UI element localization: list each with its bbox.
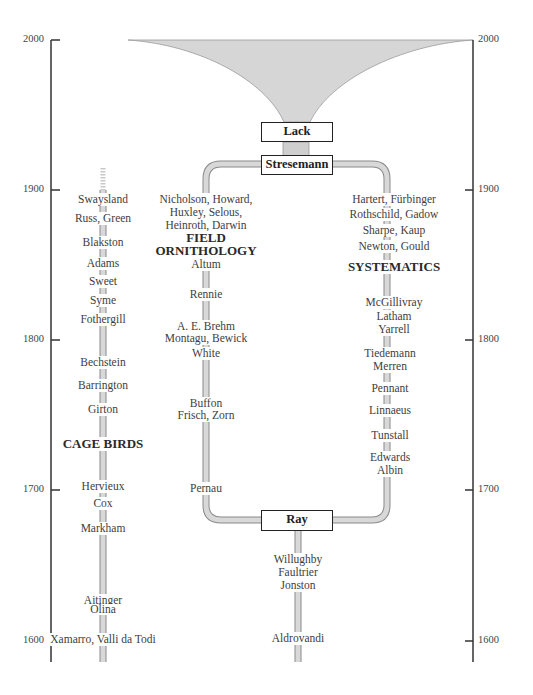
- field-name: White: [191, 347, 221, 360]
- early-name: Jonston: [279, 579, 316, 592]
- systematics-name: Merren: [372, 360, 408, 373]
- node-lack: Lack: [261, 122, 333, 142]
- cage-name: Bechstein: [79, 356, 126, 369]
- node-ray: Ray: [261, 510, 333, 531]
- left-tick-1600: 1600: [4, 634, 44, 646]
- early-name: Aldrovandi: [271, 632, 325, 645]
- systematics-name: Tiedemann: [363, 347, 416, 360]
- field-name: Altum: [190, 258, 221, 271]
- systematics-name: Pennant: [370, 382, 409, 395]
- funnel-shape: [128, 40, 473, 122]
- node-stresemann: Stresemann: [261, 155, 333, 175]
- cage-name: Fothergill: [79, 313, 126, 326]
- systematics-name: Yarrell: [377, 323, 410, 336]
- systematics-name: Sharpe, Kaup: [362, 224, 427, 237]
- cage-name: Swaysland: [77, 193, 129, 206]
- left-tick-1900: 1900: [4, 183, 44, 195]
- field-name: Frisch, Zorn: [177, 409, 236, 422]
- systematics-name: Linnaeus: [368, 404, 412, 417]
- lack-stresemann-connector: [283, 142, 309, 156]
- right-tick-1600: 1600: [478, 634, 499, 646]
- systematics-name: Newton, Gould: [358, 240, 431, 253]
- field-name: Nicholson, Howard,: [159, 193, 254, 206]
- early-name: Faultrier: [277, 566, 319, 579]
- left-tick-2000: 2000: [4, 33, 44, 45]
- field-ornithology-heading-2: ORNITHOLOGY: [154, 244, 257, 258]
- cage-name: Olina: [89, 604, 117, 615]
- diagram-graphics: [0, 0, 533, 695]
- systematics-name: Hartert, Fürbinger: [351, 193, 437, 206]
- systematics-name: Albin: [376, 464, 404, 477]
- cage-name: Xamarro, Valli da Todi: [49, 633, 156, 646]
- systematics-name: Rothschild, Gadow: [349, 208, 440, 221]
- left-tick-1700: 1700: [4, 483, 44, 495]
- cage-name: Russ, Green: [74, 212, 132, 225]
- cage-birds-heading: CAGE BIRDS: [62, 437, 145, 451]
- systematics-name: Latham: [375, 310, 412, 323]
- cage-name: Girton: [87, 403, 119, 416]
- field-name: Huxley, Selous,: [169, 206, 243, 219]
- cage-name: Cox: [92, 497, 113, 510]
- field-name: Montagu, Bewick: [164, 332, 248, 345]
- cage-name: Syme: [89, 294, 117, 307]
- cage-name: Barrington: [77, 379, 129, 392]
- right-tick-1700: 1700: [478, 483, 499, 495]
- left-tick-1800: 1800: [4, 333, 44, 345]
- systematics-name: Edwards: [369, 451, 411, 464]
- systematics-name: McGillivray: [365, 296, 424, 309]
- right-axis: [465, 40, 473, 662]
- systematics-name: Tunstall: [370, 429, 409, 442]
- early-name: Willughby: [273, 553, 324, 566]
- right-tick-1800: 1800: [478, 333, 499, 345]
- right-tick-2000: 2000: [478, 33, 499, 45]
- cage-name: Blakston: [82, 236, 125, 249]
- ornithology-timeline-diagram: 2000 1900 1800 1700 1600 2000 1900 1800 …: [0, 0, 533, 695]
- cage-name: Markham: [80, 522, 127, 535]
- systematics-heading: SYSTEMATICS: [347, 260, 441, 274]
- right-tick-1900: 1900: [478, 183, 499, 195]
- field-name: Rennie: [189, 288, 224, 301]
- field-name: Pernau: [189, 482, 223, 495]
- cage-name: Adams: [86, 257, 121, 270]
- cage-name: Sweet: [88, 275, 118, 288]
- cage-name: Hervieux: [81, 480, 126, 493]
- left-axis: [51, 40, 60, 662]
